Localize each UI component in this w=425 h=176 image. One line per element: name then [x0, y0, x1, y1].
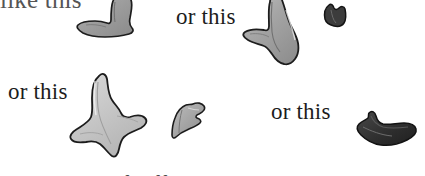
clipped-bottom-text-line: all kinds of different shapes, like this [28, 170, 361, 176]
blob-top-center [242, 0, 308, 74]
blob-large-three-point-left [62, 72, 158, 162]
label-or-this-right: or this [271, 99, 331, 125]
blob-top-left [76, 0, 138, 42]
label-like-this: like this [0, 0, 82, 14]
blob-dark-bottom-right [355, 109, 417, 149]
blob-small-center [166, 100, 208, 140]
blob-small-dark-top-right [323, 2, 347, 28]
scanned-figure: like this or this or this or this all ki… [0, 0, 425, 176]
label-or-this-top: or this [176, 4, 236, 30]
label-or-this-left: or this [8, 79, 68, 105]
